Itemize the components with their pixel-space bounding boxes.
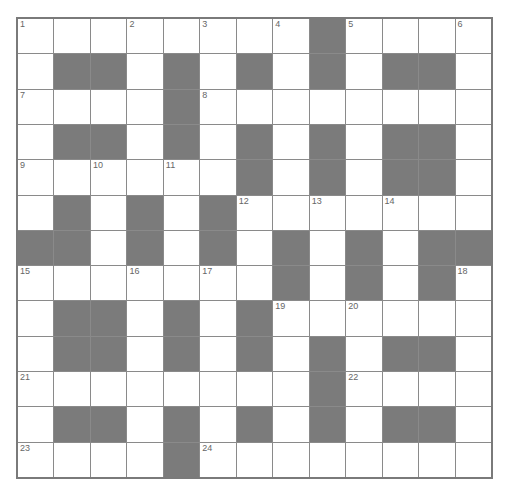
answer-cell[interactable] bbox=[419, 372, 454, 406]
answer-cell[interactable]: 19 bbox=[273, 301, 308, 335]
answer-cell[interactable] bbox=[346, 90, 381, 124]
answer-cell[interactable] bbox=[91, 19, 126, 53]
answer-cell[interactable] bbox=[383, 19, 418, 53]
answer-cell[interactable]: 6 bbox=[456, 19, 491, 53]
answer-cell[interactable] bbox=[419, 196, 454, 230]
answer-cell[interactable] bbox=[237, 231, 272, 265]
answer-cell[interactable] bbox=[200, 54, 235, 88]
answer-cell[interactable] bbox=[456, 372, 491, 406]
answer-cell[interactable] bbox=[127, 301, 162, 335]
answer-cell[interactable] bbox=[237, 266, 272, 300]
answer-cell[interactable]: 21 bbox=[18, 372, 53, 406]
answer-cell[interactable] bbox=[91, 443, 126, 477]
answer-cell[interactable]: 24 bbox=[200, 443, 235, 477]
answer-cell[interactable]: 2 bbox=[127, 19, 162, 53]
answer-cell[interactable] bbox=[346, 196, 381, 230]
answer-cell[interactable] bbox=[383, 372, 418, 406]
answer-cell[interactable]: 14 bbox=[383, 196, 418, 230]
answer-cell[interactable] bbox=[456, 90, 491, 124]
answer-cell[interactable] bbox=[346, 54, 381, 88]
answer-cell[interactable] bbox=[164, 196, 199, 230]
answer-cell[interactable]: 11 bbox=[164, 160, 199, 194]
answer-cell[interactable]: 9 bbox=[18, 160, 53, 194]
answer-cell[interactable] bbox=[346, 443, 381, 477]
answer-cell[interactable] bbox=[54, 90, 89, 124]
answer-cell[interactable] bbox=[383, 90, 418, 124]
answer-cell[interactable] bbox=[91, 372, 126, 406]
answer-cell[interactable] bbox=[310, 443, 345, 477]
answer-cell[interactable] bbox=[273, 125, 308, 159]
answer-cell[interactable]: 10 bbox=[91, 160, 126, 194]
answer-cell[interactable] bbox=[127, 125, 162, 159]
answer-cell[interactable] bbox=[54, 19, 89, 53]
answer-cell[interactable] bbox=[127, 407, 162, 441]
answer-cell[interactable] bbox=[18, 407, 53, 441]
answer-cell[interactable]: 18 bbox=[456, 266, 491, 300]
answer-cell[interactable] bbox=[200, 407, 235, 441]
answer-cell[interactable] bbox=[91, 90, 126, 124]
answer-cell[interactable] bbox=[237, 443, 272, 477]
answer-cell[interactable] bbox=[456, 54, 491, 88]
answer-cell[interactable] bbox=[91, 266, 126, 300]
answer-cell[interactable] bbox=[346, 407, 381, 441]
answer-cell[interactable] bbox=[18, 301, 53, 335]
answer-cell[interactable] bbox=[54, 443, 89, 477]
answer-cell[interactable]: 7 bbox=[18, 90, 53, 124]
answer-cell[interactable] bbox=[310, 301, 345, 335]
answer-cell[interactable] bbox=[127, 443, 162, 477]
answer-cell[interactable] bbox=[237, 19, 272, 53]
answer-cell[interactable] bbox=[18, 337, 53, 371]
answer-cell[interactable]: 13 bbox=[310, 196, 345, 230]
answer-cell[interactable] bbox=[200, 160, 235, 194]
answer-cell[interactable] bbox=[383, 443, 418, 477]
answer-cell[interactable]: 17 bbox=[200, 266, 235, 300]
answer-cell[interactable] bbox=[273, 407, 308, 441]
answer-cell[interactable] bbox=[237, 372, 272, 406]
answer-cell[interactable] bbox=[127, 372, 162, 406]
answer-cell[interactable] bbox=[310, 266, 345, 300]
answer-cell[interactable] bbox=[419, 19, 454, 53]
answer-cell[interactable]: 12 bbox=[237, 196, 272, 230]
answer-cell[interactable] bbox=[237, 90, 272, 124]
answer-cell[interactable] bbox=[18, 54, 53, 88]
answer-cell[interactable] bbox=[127, 337, 162, 371]
answer-cell[interactable]: 15 bbox=[18, 266, 53, 300]
answer-cell[interactable] bbox=[164, 231, 199, 265]
answer-cell[interactable] bbox=[383, 301, 418, 335]
answer-cell[interactable] bbox=[346, 160, 381, 194]
answer-cell[interactable] bbox=[456, 196, 491, 230]
answer-cell[interactable] bbox=[127, 160, 162, 194]
answer-cell[interactable] bbox=[200, 372, 235, 406]
answer-cell[interactable] bbox=[310, 90, 345, 124]
answer-cell[interactable]: 4 bbox=[273, 19, 308, 53]
answer-cell[interactable]: 22 bbox=[346, 372, 381, 406]
answer-cell[interactable] bbox=[456, 301, 491, 335]
answer-cell[interactable]: 1 bbox=[18, 19, 53, 53]
answer-cell[interactable] bbox=[273, 443, 308, 477]
answer-cell[interactable] bbox=[91, 196, 126, 230]
answer-cell[interactable] bbox=[419, 301, 454, 335]
answer-cell[interactable] bbox=[200, 125, 235, 159]
answer-cell[interactable] bbox=[346, 337, 381, 371]
answer-cell[interactable] bbox=[273, 372, 308, 406]
answer-cell[interactable] bbox=[200, 337, 235, 371]
answer-cell[interactable] bbox=[164, 19, 199, 53]
answer-cell[interactable]: 5 bbox=[346, 19, 381, 53]
answer-cell[interactable] bbox=[91, 231, 126, 265]
answer-cell[interactable] bbox=[200, 301, 235, 335]
answer-cell[interactable] bbox=[164, 372, 199, 406]
answer-cell[interactable]: 3 bbox=[200, 19, 235, 53]
answer-cell[interactable]: 16 bbox=[127, 266, 162, 300]
answer-cell[interactable] bbox=[456, 337, 491, 371]
answer-cell[interactable] bbox=[18, 125, 53, 159]
answer-cell[interactable] bbox=[273, 196, 308, 230]
answer-cell[interactable] bbox=[456, 160, 491, 194]
answer-cell[interactable] bbox=[54, 372, 89, 406]
answer-cell[interactable] bbox=[419, 90, 454, 124]
answer-cell[interactable] bbox=[383, 266, 418, 300]
answer-cell[interactable] bbox=[419, 443, 454, 477]
answer-cell[interactable] bbox=[127, 90, 162, 124]
answer-cell[interactable] bbox=[346, 125, 381, 159]
answer-cell[interactable] bbox=[456, 125, 491, 159]
answer-cell[interactable] bbox=[164, 266, 199, 300]
